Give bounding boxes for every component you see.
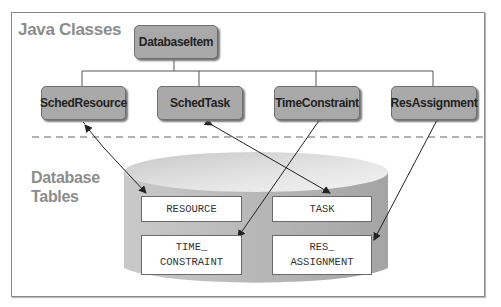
class-resassignment: ResAssignment (391, 86, 477, 120)
database-tables-label: Database Tables (31, 168, 100, 206)
table-task: TASK (272, 196, 372, 222)
class-schedresource: SchedResource (41, 86, 126, 120)
class-databaseitem: DatabaseItem (134, 25, 218, 59)
diagram-graphics (0, 0, 501, 307)
table-time-constraint: TIME_ CONSTRAINT (141, 235, 242, 275)
table-res-assignment: RES_ ASSIGNMENT (272, 235, 372, 275)
class-schedtask: SchedTask (157, 86, 243, 120)
inheritance-lines (82, 59, 433, 86)
table-resource: RESOURCE (141, 196, 242, 222)
java-classes-label: Java Classes (18, 20, 121, 40)
class-timeconstraint: TimeConstraint (274, 86, 360, 120)
